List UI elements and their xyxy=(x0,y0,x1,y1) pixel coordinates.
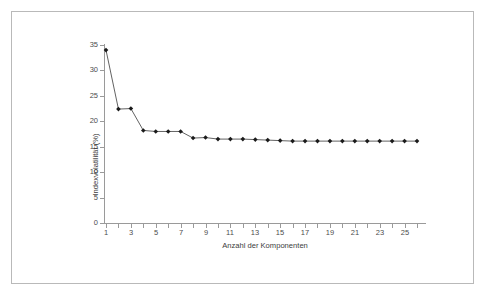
data-point-marker xyxy=(353,139,358,144)
data-point-marker xyxy=(265,138,270,143)
data-point-marker xyxy=(166,129,171,134)
data-point-marker xyxy=(228,137,233,142)
data-point-marker xyxy=(377,139,382,144)
data-point-marker xyxy=(216,137,221,142)
series-markers xyxy=(104,48,420,144)
data-point-marker xyxy=(290,139,295,144)
data-point-marker xyxy=(340,139,345,144)
data-point-marker xyxy=(141,128,146,133)
data-point-marker xyxy=(402,139,407,144)
x-axis-title: Anzahl der Komponenten xyxy=(140,241,390,250)
y-axis-title: Indexvolatilität (%) xyxy=(91,90,100,240)
data-point-marker xyxy=(253,137,258,142)
data-point-marker xyxy=(241,137,246,142)
data-point-marker xyxy=(191,136,196,141)
data-point-marker xyxy=(365,139,370,144)
y-axis-title-container: Indexvolatilität (%) xyxy=(60,60,74,210)
data-point-marker xyxy=(116,107,121,112)
data-point-marker xyxy=(328,139,333,144)
data-point-marker xyxy=(278,138,283,143)
data-point-marker xyxy=(303,139,308,144)
chart-figure: 05101520253035 135791113151719212325 Ind… xyxy=(0,0,487,297)
data-point-marker xyxy=(153,129,158,134)
plot-area: 05101520253035 135791113151719212325 Ind… xyxy=(0,0,487,297)
data-point-marker xyxy=(415,139,420,144)
data-point-marker xyxy=(178,129,183,134)
series-line xyxy=(106,50,417,141)
data-point-marker xyxy=(315,139,320,144)
data-point-marker xyxy=(104,48,109,53)
data-point-marker xyxy=(390,139,395,144)
data-point-marker xyxy=(129,106,134,111)
data-point-marker xyxy=(203,135,208,140)
